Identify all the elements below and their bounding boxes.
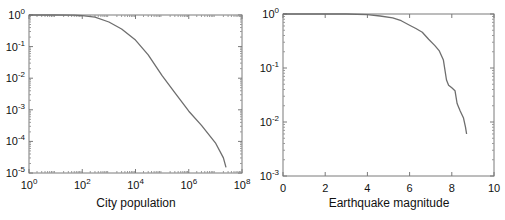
tick-label: 10-2 [260, 114, 280, 128]
tick-label: 2 [322, 182, 328, 194]
tick-label: 108 [234, 177, 251, 191]
data-line [283, 14, 467, 134]
tick-label: 10 [488, 182, 500, 194]
tick-label: 100 [21, 177, 38, 191]
tick-label: 102 [74, 177, 91, 191]
tick-label: 10-4 [6, 133, 26, 147]
data-line [29, 15, 226, 167]
tick-label: 0 [280, 182, 286, 194]
axes-frame [283, 14, 494, 176]
tick-label: 10-1 [260, 60, 280, 74]
tick-label: 104 [127, 177, 144, 191]
tick-label: 4 [364, 182, 370, 194]
axes-frame [29, 15, 242, 173]
x-axis-label-city-population: City population [96, 196, 175, 210]
tick-label: 106 [180, 177, 197, 191]
plots-canvas: 10010-110-210-310-410-5100102104106108 1… [0, 0, 505, 220]
tick-label: 100 [262, 6, 279, 20]
tick-label: 10-1 [6, 39, 26, 53]
tick-label: 6 [407, 182, 413, 194]
x-axis-label-earthquake-magnitude: Earthquake magnitude [329, 196, 450, 210]
plot-city-population: 10010-110-210-310-410-5100102104106108 [6, 7, 251, 191]
tick-label: 10-3 [6, 102, 26, 116]
tick-label: 8 [449, 182, 455, 194]
plot-earthquake-magnitude: 10010-110-210-30246810 [260, 6, 501, 194]
tick-label: 10-5 [6, 165, 26, 179]
tick-label: 100 [8, 7, 25, 21]
figure: 10010-110-210-310-410-5100102104106108 1… [0, 0, 505, 220]
tick-label: 10-2 [6, 70, 26, 84]
tick-label: 10-3 [260, 168, 280, 182]
